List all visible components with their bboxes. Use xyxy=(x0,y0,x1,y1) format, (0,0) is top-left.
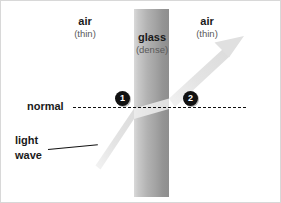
glass-property: (dense) xyxy=(123,44,181,55)
label-normal: normal xyxy=(27,100,64,112)
air-right-name: air xyxy=(179,15,235,28)
refracted-ray xyxy=(134,99,169,120)
emergent-ray xyxy=(169,49,230,107)
air-left-property: (thin) xyxy=(57,28,113,39)
normal-line xyxy=(73,107,246,108)
label-air-right: air (thin) xyxy=(179,15,235,39)
glass-name: glass xyxy=(123,31,181,44)
label-glass: glass (dense) xyxy=(123,31,181,55)
marker-2: 2 xyxy=(183,91,198,106)
light-wave-line2: wave xyxy=(15,148,42,163)
light-wave-line1: light xyxy=(15,133,42,148)
label-air-left: air (thin) xyxy=(57,15,113,39)
air-right-property: (thin) xyxy=(179,28,235,39)
refraction-diagram: air (thin) glass (dense) air (thin) norm… xyxy=(0,0,281,203)
label-light-wave: light wave xyxy=(15,133,42,163)
air-left-name: air xyxy=(57,15,113,28)
marker-1: 1 xyxy=(115,91,130,106)
incident-ray xyxy=(96,109,135,170)
